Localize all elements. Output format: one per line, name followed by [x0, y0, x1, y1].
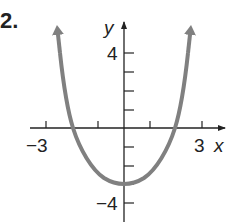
right-curve-arrow — [188, 30, 191, 53]
graph: −3 3 x 4 −4 y — [0, 0, 235, 222]
left-curve-arrow — [58, 30, 61, 53]
x-tick-label-neg3: −3 — [26, 135, 48, 156]
y-tick-label-neg4: −4 — [96, 193, 118, 214]
x-tick-label-3: 3 — [194, 135, 205, 156]
y-axis-label: y — [102, 17, 115, 38]
x-axis-label: x — [213, 135, 225, 156]
y-tick-label-4: 4 — [107, 43, 118, 64]
